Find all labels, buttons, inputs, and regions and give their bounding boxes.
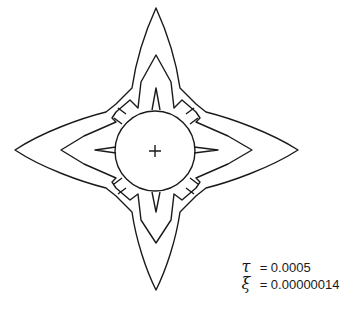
top-spike — [152, 88, 160, 110]
bottom-spike — [152, 192, 160, 212]
xi-symbol: ξ — [236, 274, 256, 293]
center-crosshair-icon — [149, 145, 161, 157]
xi-value: 0.00000014 — [271, 277, 340, 292]
middle-contour — [61, 55, 252, 243]
tau-value: 0.0005 — [271, 260, 311, 275]
tau-equals: = — [260, 260, 268, 275]
right-spike — [194, 147, 218, 153]
outer-contour — [15, 8, 298, 290]
left-spike — [95, 147, 116, 153]
xi-equals: = — [260, 277, 268, 292]
xi-label: ξ = 0.00000014 — [236, 274, 340, 293]
